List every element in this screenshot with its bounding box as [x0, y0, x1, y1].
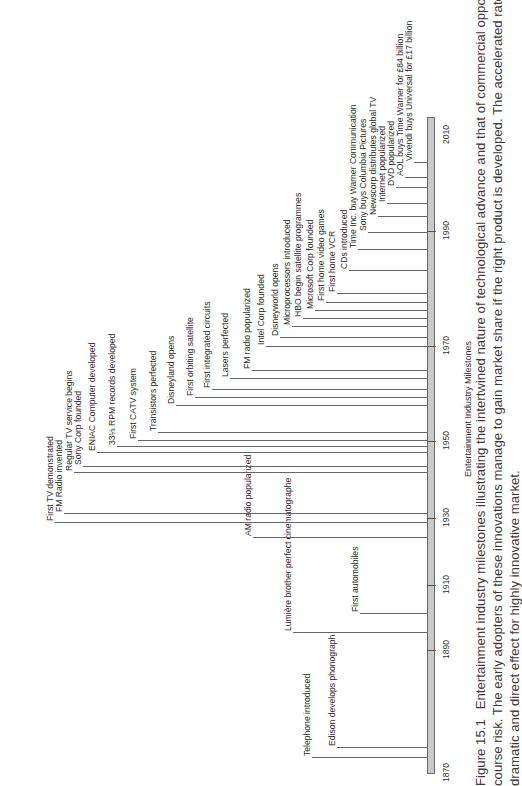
year-tick	[427, 231, 436, 232]
milestone-label: HBO begin satellite programmes	[294, 193, 303, 317]
milestone-line	[292, 326, 427, 327]
axis-title: Entertainment Industry Milestones	[463, 341, 473, 477]
milestone-line	[158, 432, 427, 433]
milestone-label: Lasers perfected	[221, 313, 230, 377]
milestone-line	[83, 466, 427, 467]
milestone-label: Time Inc. buy Warner Communication	[349, 104, 358, 248]
milestone-line	[253, 537, 427, 538]
milestone-label: FM radio popularized	[243, 288, 252, 369]
milestone-line	[414, 162, 427, 163]
milestone-label: Lumière brother perfect cinematographe	[284, 478, 293, 631]
year-label: 1970	[441, 336, 451, 355]
milestone-label: Disneyworld opens	[271, 263, 280, 336]
milestone-line	[74, 472, 427, 473]
milestone-line	[349, 270, 427, 271]
milestone-line	[405, 177, 427, 178]
milestone-label: Microprocessors introduced	[283, 219, 292, 325]
milestone-label: Sony Corp founded	[74, 391, 83, 465]
milestone-line	[266, 346, 427, 347]
milestone-label: First home video games	[317, 209, 326, 301]
milestone-line	[396, 187, 427, 188]
milestone-label: Transistors perfected	[149, 351, 158, 431]
milestone-line	[326, 302, 427, 303]
milestone-line	[315, 310, 427, 311]
milestone-line	[360, 613, 427, 614]
milestone-line	[55, 522, 427, 523]
figure-number: Figure 15.1	[473, 719, 488, 786]
year-label: 1950	[441, 431, 451, 450]
milestone-line	[303, 318, 427, 319]
milestone-label: First orbiting satellite	[186, 317, 195, 396]
milestone-line	[230, 378, 427, 379]
milestone-label: Sony buys Columbia Pictures	[359, 119, 368, 231]
milestone-line	[117, 446, 427, 447]
milestone-label: 33⅓ RPM records developed	[108, 334, 117, 445]
milestone-line	[378, 216, 427, 217]
milestone-line	[358, 249, 427, 250]
milestone-line	[337, 747, 427, 748]
caption-line-2: course risk. The early adopters of these…	[491, 0, 504, 786]
milestone-line	[212, 389, 427, 390]
year-tick	[427, 585, 436, 586]
caption-line-3: dramatic and direct effect for highly in…	[508, 470, 521, 786]
year-label: 1890	[441, 640, 451, 659]
year-label: 2010	[441, 125, 451, 144]
milestone-label: Intel Corp founded	[257, 274, 266, 345]
milestone-label: First CATV system	[129, 368, 138, 439]
milestone-line	[195, 397, 427, 398]
milestone-label: First automobiles	[351, 547, 360, 612]
milestone-label: First integrated circuits	[203, 302, 212, 388]
milestone-line	[312, 757, 427, 758]
year-tick	[427, 346, 436, 347]
milestone-line	[337, 293, 427, 294]
milestone-line	[293, 632, 427, 633]
timeline-bar	[427, 117, 435, 774]
milestone-label: Disneyland opens	[167, 336, 176, 404]
milestone-label: Vivendi buys Universal for £17 billion	[405, 21, 414, 161]
caption-text-1: Entertainment industry milestones illust…	[473, 0, 488, 709]
milestone-line	[64, 513, 427, 514]
year-tick	[427, 441, 436, 442]
milestone-label: Microsoft Corp founded	[306, 220, 315, 309]
milestone-line	[97, 452, 427, 453]
milestone-line	[138, 440, 427, 441]
year-tick	[427, 518, 436, 519]
year-label: 1870	[441, 763, 451, 782]
caption-line-1: Figure 15.1Entertainment industry milest…	[474, 0, 487, 786]
year-label: 1910	[441, 575, 451, 594]
milestone-line	[368, 232, 427, 233]
milestone-line	[252, 370, 427, 371]
milestone-line	[176, 405, 427, 406]
year-label: 1930	[441, 508, 451, 527]
milestone-line	[387, 203, 427, 204]
milestone-line	[280, 337, 427, 338]
year-tick	[427, 650, 436, 651]
milestone-label: First home VCR	[328, 231, 337, 292]
milestone-label: ENIAC Computer developed	[88, 343, 97, 451]
year-label: 1990	[441, 221, 451, 240]
milestone-label: FM Radio invented	[55, 440, 64, 512]
milestone-label: Telephone introduced	[303, 674, 312, 756]
milestone-label: Edison develops phonograph	[328, 635, 337, 746]
